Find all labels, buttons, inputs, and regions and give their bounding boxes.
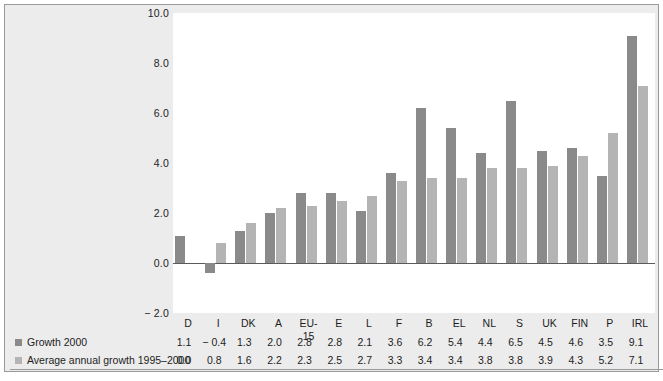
bar [307,206,317,264]
plot-area [173,13,655,313]
bar-group [625,13,655,313]
bar-group [535,13,565,313]
bar [638,86,648,264]
legend-label: Average annual growth 1995–2000 [27,354,190,366]
bar-group [354,13,384,313]
data-table-cell: 1.6 [231,352,257,368]
bar [337,201,347,264]
data-table-cell: 1.1 [171,334,197,350]
legend-item-average-annual-growth: Average annual growth 1995–2000 [15,352,190,368]
legend-item-growth-2000: Growth 2000 [15,334,87,350]
bar [235,231,245,264]
y-axis-tick-label: − 2.0 [123,308,169,318]
bar [446,128,456,263]
x-axis-tick-label: A [265,317,291,330]
bar [517,168,527,263]
x-axis-tick-label: IRL [627,317,653,330]
data-table-cell: 3.4 [442,352,468,368]
data-table-cell: 4.4 [472,334,498,350]
x-axis-tick-label: F [386,317,412,330]
chart-figure: 10.08.06.04.02.00.0− 2.0 DIDKAEU-15ELFBE… [0,0,663,381]
bar [246,223,256,263]
data-table-cell: 5.2 [593,352,619,368]
x-axis-tick-label: UK [537,317,563,330]
bar-group [233,13,263,313]
data-table-cell: 3.5 [593,334,619,350]
data-table-cell: 1.3 [231,334,257,350]
bar [326,193,336,263]
data-table-cell: 2.7 [352,352,378,368]
bar [216,243,226,263]
data-table-cell: 0.0 [171,352,197,368]
bar-group [173,13,203,313]
bar [548,166,558,264]
x-axis-tick-label: D [175,317,201,330]
bars-layer [173,13,655,313]
bar-group [474,13,504,313]
bar [597,176,607,264]
data-table-cell: 4.3 [563,352,589,368]
bar [367,196,377,264]
bar [578,156,588,264]
y-axis-tick-label: 2.0 [123,208,169,218]
footer-divider [10,369,663,370]
y-axis-tick-label: 0.0 [123,258,169,268]
data-table-cell: 3.6 [382,334,408,350]
data-table-row-growth-2000: Growth 2000 1.1− 0.41.32.02.82.82.13.66.… [5,334,660,351]
y-axis: 10.08.06.04.02.00.0− 2.0 [113,13,169,313]
bar [427,178,437,263]
bar-group [595,13,625,313]
data-table-cell: 2.8 [292,334,318,350]
bar-group [384,13,414,313]
data-table-cell: 4.5 [533,334,559,350]
data-table-cell: 2.3 [292,352,318,368]
y-axis-tick-label: 10.0 [123,8,169,18]
bar [296,193,306,263]
data-table-cell: 3.8 [502,352,528,368]
x-axis-tick-label: I [205,317,231,330]
data-table-cell: 2.1 [352,334,378,350]
bar [627,36,637,264]
data-table-row-average-annual-growth: Average annual growth 1995–2000 0.00.81.… [5,352,660,369]
data-table-cell: 7.1 [623,352,649,368]
bar [457,178,467,263]
data-table-cell: 6.2 [412,334,438,350]
data-table-cell: 5.4 [442,334,468,350]
legend-swatch-icon [15,357,22,364]
data-table-cell: 9.1 [623,334,649,350]
data-table-cell: 2.2 [261,352,287,368]
bar-group [414,13,444,313]
x-axis-tick-label: S [506,317,532,330]
bar [397,181,407,264]
bar-group [263,13,293,313]
data-table-cell: 4.6 [563,334,589,350]
data-table-cell: 2.0 [261,334,287,350]
bar [567,148,577,263]
data-table-cell: 2.5 [322,352,348,368]
x-axis-tick-label: DK [235,317,261,330]
bar [276,208,286,263]
x-axis-tick-label: NL [476,317,502,330]
x-axis-tick-label: L [356,317,382,330]
bar [416,108,426,263]
data-table-cell: 0.8 [201,352,227,368]
data-table-cell: 3.9 [533,352,559,368]
data-table-cell: − 0.4 [201,334,227,350]
bar [537,151,547,264]
y-axis-tick-label: 6.0 [123,108,169,118]
bar [175,236,185,264]
x-axis-tick-label: FIN [567,317,593,330]
bar [386,173,396,263]
bar [608,133,618,263]
bar-group [444,13,474,313]
bar [487,168,497,263]
bar [476,153,486,263]
chart-panel: 10.08.06.04.02.00.0− 2.0 DIDKAEU-15ELFBE… [4,4,659,372]
bar [265,213,275,263]
y-axis-tick-label: 4.0 [123,158,169,168]
data-table-cell: 2.8 [322,334,348,350]
data-table-cell: 3.4 [412,352,438,368]
bar-group [324,13,354,313]
bar-group [565,13,595,313]
bar-group [203,13,233,313]
